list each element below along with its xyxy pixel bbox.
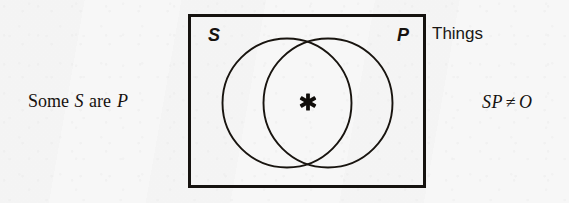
asterisk-icon	[300, 93, 317, 110]
formula-value: O	[519, 92, 532, 112]
circle-p	[264, 39, 393, 168]
venn-diagram-figure: Some S areP S P Things SP≠O	[0, 0, 569, 203]
circle-s	[223, 39, 352, 168]
universe-label: Things	[432, 25, 483, 44]
formula-terms: SP	[482, 92, 503, 112]
formula-statement: SP≠O	[482, 92, 532, 114]
formula-operator: ≠	[503, 92, 519, 112]
